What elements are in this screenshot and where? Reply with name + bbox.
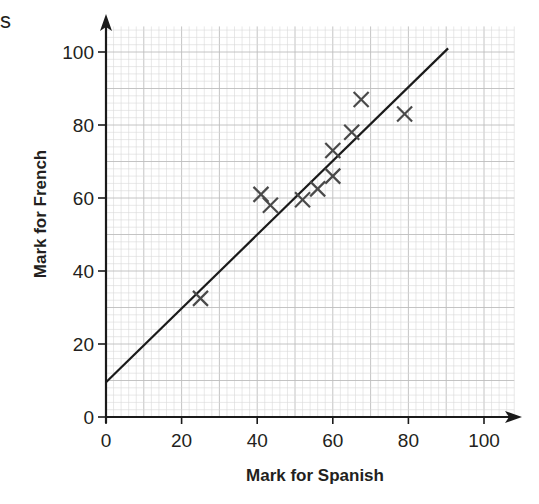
y-tick-label: 20	[73, 334, 94, 355]
axes	[100, 14, 522, 423]
x-tick-label: 40	[247, 430, 268, 451]
scatter-chart: 020406080100020406080100 Mark for Spanis…	[0, 0, 539, 504]
x-tick-label: 80	[398, 430, 419, 451]
x-tick-label: 0	[101, 430, 112, 451]
y-tick-label: 0	[83, 407, 94, 428]
y-tick-label: 80	[73, 115, 94, 136]
x-tick-label: 60	[322, 430, 343, 451]
x-axis-title: Mark for Spanish	[246, 466, 384, 485]
y-tick-label: 60	[73, 188, 94, 209]
grid	[106, 26, 514, 417]
data-point-x-marker	[397, 107, 412, 122]
line-of-best-fit	[106, 48, 448, 382]
y-axis-title: Mark for French	[31, 150, 50, 278]
x-tick-label: 20	[171, 430, 192, 451]
x-tick-label: 100	[468, 430, 500, 451]
y-tick-label: 40	[73, 261, 94, 282]
data-point-x-marker	[354, 92, 369, 107]
y-tick-label: 100	[62, 42, 94, 63]
